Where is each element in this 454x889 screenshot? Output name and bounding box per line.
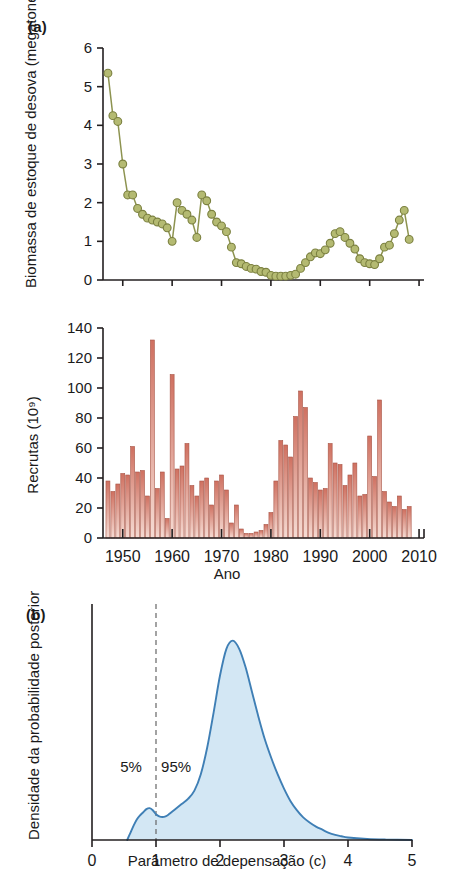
panel-recruits-bar [234, 505, 238, 538]
panel-recruits-bar [397, 496, 401, 538]
panel-a-marker [228, 243, 236, 251]
panel-recruits-plot: 0204060801001201401950196019701980199020… [0, 300, 454, 590]
panel-recruits-bar [229, 523, 233, 538]
panel-recruits-bar [378, 400, 382, 538]
panel-recruits-bar [195, 496, 199, 538]
panel-recruits-bar [294, 417, 298, 539]
panel-a-marker [395, 216, 403, 224]
panel-b-annotation-1: 95% [161, 758, 191, 775]
panel-recruits-bar [323, 489, 327, 539]
panel-b-xlabel: Parâmetro de depensação (c) [0, 852, 454, 869]
panel-recruits-bar [363, 495, 367, 539]
panel-recruits-ylabel: Recrutas (10⁹) [24, 340, 41, 550]
panel-recruits-bar [205, 478, 209, 538]
panel-recruits-bar [160, 472, 164, 538]
panel-recruits-bar [155, 489, 159, 539]
panel-recruits-bar [111, 492, 115, 539]
panel-a-marker [163, 224, 171, 232]
panel-recruits-bar [313, 483, 317, 539]
panel-recruits-bar [338, 465, 342, 539]
panel-a-marker [390, 230, 398, 238]
panel-b-ylabel: Densidade da probabilidade posterior [26, 610, 43, 840]
panel-recruits-y-ticklabel: 120 [67, 349, 92, 366]
panel-a-marker [386, 241, 394, 249]
panel-a-marker [168, 237, 176, 245]
panel-recruits-bar [200, 481, 204, 538]
panel-recruits-bar [215, 481, 219, 538]
panel-recruits-x-ticklabel: 1960 [154, 548, 190, 565]
panel-a-y-ticklabel: 2 [84, 194, 92, 211]
panel-a-marker-group [104, 69, 413, 280]
panel-recruits-bar [387, 502, 391, 538]
panel-recruits-xlabel: Ano [0, 565, 454, 582]
panel-recruits-x-ticklabel: 1980 [253, 548, 289, 565]
panel-a-marker [193, 234, 201, 242]
panel-recruits-bar [353, 463, 357, 538]
panel-recruits-bar [308, 478, 312, 538]
panel-recruits-bar [279, 441, 283, 539]
panel-recruits-bar [150, 340, 154, 538]
panel-recruits-bar [126, 475, 130, 538]
panel-recruits-x-ticklabel: 2000 [352, 548, 388, 565]
panel-a-y-ticklabel: 6 [84, 39, 92, 56]
panel-a-marker [129, 191, 137, 199]
panel-recruits-y-ticklabel: 80 [75, 409, 92, 426]
panel-recruits-bar [180, 466, 184, 538]
panel-a-y-ticklabel: 1 [84, 232, 92, 249]
panel-recruits-bar [274, 481, 278, 538]
panel-recruits-bar [284, 445, 288, 538]
panel-recruits-x-ticklabel: 1950 [105, 548, 141, 565]
panel-a-biomass: (a) Biomassa de estoque de desova (megat… [0, 0, 454, 300]
panel-recruits-bar [392, 507, 396, 539]
panel-recruits-y-ticklabel: 60 [75, 439, 92, 456]
panel-recruits-bar [373, 477, 377, 539]
panel-a-marker [188, 216, 196, 224]
panel-recruits-bar [106, 481, 110, 538]
panel-a-ylabel: Biomassa de estoque de desova (megatonel… [22, 38, 39, 288]
panel-recruits-x-ticklabel: 1990 [302, 548, 338, 565]
panel-recruits-bar [220, 475, 224, 538]
panel-recruits-x-ticklabel: 1970 [204, 548, 240, 565]
panel-recruits-bar [368, 436, 372, 538]
panel-recruits-bar [141, 471, 145, 539]
panel-recruits-bar [145, 496, 149, 538]
panel-a-marker [104, 69, 112, 77]
panel-recruits-bar [407, 507, 411, 539]
panel-recruits-bar [165, 519, 169, 539]
panel-recruits-y-ticklabel: 100 [67, 379, 92, 396]
panel-recruits-bar [239, 529, 243, 538]
panel-recruits-bar [348, 475, 352, 538]
panel-recruits-bar [170, 375, 174, 539]
panel-recruits-bar [210, 505, 214, 538]
panel-a-marker [326, 239, 334, 247]
panel-b-posterior: (b) Densidade da probabilidade posterior… [0, 590, 454, 889]
panel-recruits-y-ticklabel: 40 [75, 469, 92, 486]
panel-a-plot: 0123456 [0, 0, 454, 300]
panel-a-marker [400, 207, 408, 215]
panel-recruits-y-ticklabel: 140 [67, 319, 92, 336]
panel-a-marker [376, 255, 384, 263]
figure-root: (a) Biomassa de estoque de desova (megat… [0, 0, 454, 889]
panel-recruits-bar [383, 492, 387, 539]
panel-recruits-bar [358, 496, 362, 538]
panel-recruits-y-ticklabel: 20 [75, 499, 92, 516]
panel-a-marker [208, 210, 216, 218]
panel-recruits-x-ticklabel: 2010 [401, 548, 437, 565]
panel-recruits-bar [259, 531, 263, 539]
panel-recruits-bar [136, 472, 140, 538]
panel-recruits-bar [131, 447, 135, 539]
panel-recruits-bar [175, 469, 179, 538]
panel-recruits-bar [343, 486, 347, 539]
panel-recruits-bar [289, 457, 293, 538]
panel-a-marker [351, 245, 359, 253]
panel-a-marker [223, 228, 231, 236]
panel-a-marker [405, 236, 413, 244]
panel-a-marker [114, 118, 122, 126]
panel-recruits-bar [116, 484, 120, 538]
panel-b-plot: 0123455%95% [0, 590, 454, 889]
panel-recruits-bar [264, 525, 268, 539]
panel-recruits-bar [185, 444, 189, 539]
panel-recruits-bar [121, 474, 125, 539]
panel-recruits: Recrutas (10⁹) 0204060801001201401950196… [0, 300, 454, 590]
panel-a-y-ticklabel: 0 [84, 271, 92, 288]
